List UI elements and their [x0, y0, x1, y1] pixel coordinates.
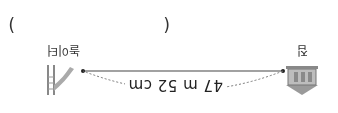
distance-label: 47 m 52 cm: [125, 76, 226, 94]
distance-connector: [0, 0, 338, 113]
rotated-problem-figure: ( ) 집 놀이터 47 m 52 cm: [0, 0, 338, 113]
